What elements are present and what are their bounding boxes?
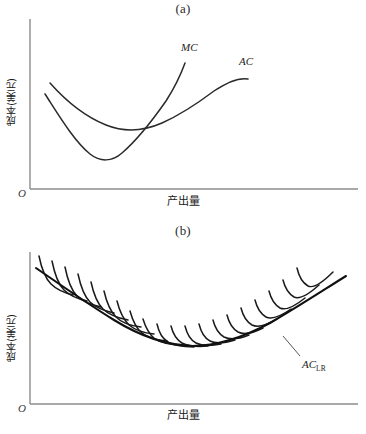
ac-lr-label-main: AC xyxy=(301,358,317,370)
short-run-curve xyxy=(52,261,87,301)
ac-label: AC xyxy=(238,55,254,67)
ac-curve xyxy=(50,79,248,130)
panel-a-x-axis-label: 产出量 xyxy=(0,192,366,208)
short-run-curve xyxy=(297,268,333,287)
panel-a: (a) MC AC O 成本(美元) 产出量 xyxy=(0,0,366,216)
panel-b-x-axis-label: 产出量 xyxy=(0,406,366,422)
short-run-curves-group xyxy=(39,256,333,347)
short-run-curve xyxy=(283,280,319,298)
short-run-curve xyxy=(104,291,141,327)
ac-lr-label: ACLR xyxy=(301,358,326,373)
ac-lr-leader-line xyxy=(283,336,300,356)
panel-a-plot: MC AC O xyxy=(0,0,366,218)
panel-a-y-axis-label: 成本(美元) xyxy=(4,78,19,126)
ac-lr-envelope-curve xyxy=(36,268,346,346)
short-run-curve xyxy=(117,301,154,334)
cost-curves-figure: (a) MC AC O 成本(美元) 产出量 (b) xyxy=(0,0,366,434)
panel-b-y-axis-label: 成本(美元) xyxy=(4,314,19,362)
panel-b-plot: ACLR O xyxy=(0,216,366,434)
panel-b: (b) xyxy=(0,216,366,434)
mc-label: MC xyxy=(180,41,198,53)
ac-lr-label-subscript: LR xyxy=(316,364,326,373)
mc-curve xyxy=(45,63,185,160)
